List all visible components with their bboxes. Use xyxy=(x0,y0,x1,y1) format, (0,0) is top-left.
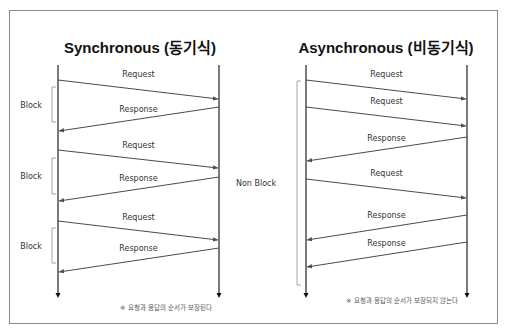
sync-message-arrow xyxy=(58,150,218,168)
sync-message-label: Request xyxy=(122,141,155,150)
async-message-arrow xyxy=(306,179,466,198)
sync-message-label: Request xyxy=(122,70,155,79)
async-message-label: Response xyxy=(367,134,406,143)
sync-message-arrow xyxy=(58,80,218,99)
bracket-icon xyxy=(52,158,56,194)
sync-title: Synchronous (동기식) xyxy=(64,39,216,56)
sync-message-label: Request xyxy=(122,213,155,222)
arrow-down-icon xyxy=(56,293,61,298)
async-note: ※ 요청과 응답의 순서가 보장되지 않는다 xyxy=(346,296,458,305)
sync-brackets: BlockBlockBlock xyxy=(20,87,56,263)
async-panel: Asynchronous (비동기식) RequestRequestRespon… xyxy=(236,39,474,305)
async-message-label: Request xyxy=(370,169,403,178)
async-message-label: Request xyxy=(370,70,403,79)
async-bracket-label: Non Block xyxy=(236,179,276,188)
sync-bracket-label: Block xyxy=(20,172,42,181)
async-message-label: Response xyxy=(367,211,406,220)
sync-message-arrow xyxy=(58,221,218,240)
sync-bracket-label: Block xyxy=(20,101,42,110)
bracket-icon xyxy=(297,81,301,285)
bracket-icon xyxy=(52,87,56,122)
async-brackets: Non Block xyxy=(236,81,301,285)
sync-message-label: Response xyxy=(119,244,158,253)
sync-message-label: Response xyxy=(119,174,158,183)
sync-panel: Synchronous (동기식) RequestResponseRequest… xyxy=(20,39,221,312)
async-messages: RequestRequestResponseRequestResponseRes… xyxy=(306,70,467,267)
arrow-down-icon xyxy=(217,293,222,298)
arrow-down-icon xyxy=(304,293,309,298)
sync-message-label: Response xyxy=(119,105,158,114)
sync-messages: RequestResponseRequestResponseRequestRes… xyxy=(58,70,219,272)
arrow-down-icon xyxy=(465,293,470,298)
sync-bracket-label: Block xyxy=(20,242,42,251)
async-title: Asynchronous (비동기식) xyxy=(298,39,473,56)
sequence-diagram: Synchronous (동기식) RequestResponseRequest… xyxy=(0,0,508,332)
async-message-label: Request xyxy=(370,97,403,106)
bracket-icon xyxy=(52,228,56,263)
sync-note: ※ 요청과 응답의 순서가 보장된다 xyxy=(120,303,212,312)
async-message-arrow xyxy=(306,107,466,126)
async-message-label: Response xyxy=(367,239,406,248)
